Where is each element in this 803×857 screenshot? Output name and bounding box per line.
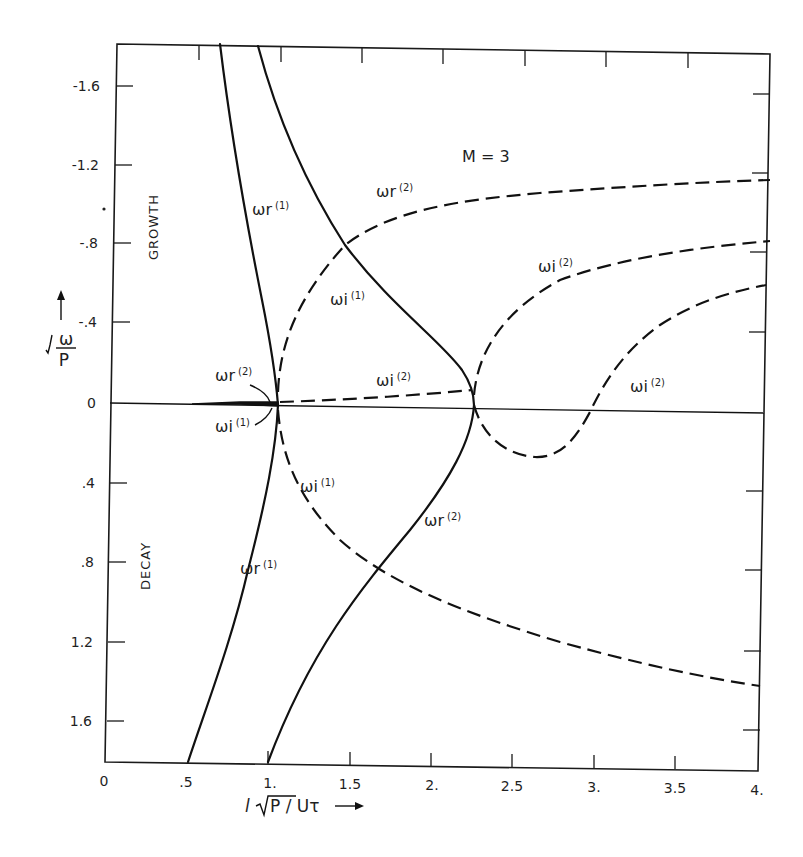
top-axis-ticks — [199, 46, 688, 68]
leader-line — [255, 408, 272, 425]
svg-text:1.6: 1.6 — [70, 713, 92, 729]
omega-r1-upper — [220, 44, 278, 405]
y-axis-title: ω P — [46, 290, 76, 370]
svg-text:.4: .4 — [82, 475, 95, 491]
arrow-head-icon — [57, 290, 65, 300]
svg-text:2.: 2. — [425, 777, 438, 793]
svg-text:0: 0 — [87, 395, 96, 411]
omega-i2-near-zero — [280, 390, 472, 402]
stray-dot — [102, 207, 105, 210]
label-omega-r2-near-zero: ωr(2) — [215, 366, 252, 385]
svg-text:P / Uτ: P / Uτ — [270, 796, 319, 816]
label-omega-i1-upper: ωi(1) — [330, 290, 365, 309]
svg-text:1.: 1. — [263, 775, 276, 791]
x-tick-labels: 0 .5 1. 1.5 2. 2.5 3. 3.5 4. — [100, 773, 764, 798]
label-omega-r1-upper: ωr(1) — [252, 200, 289, 219]
x-axis-title: l P / Uτ — [245, 796, 364, 816]
right-axis-ticks — [743, 94, 769, 730]
growth-label: GROWTH — [146, 194, 161, 260]
svg-text:.5: .5 — [179, 774, 192, 790]
omega-r1-lower — [188, 405, 278, 762]
y-tick-labels: -1.6 -1.2 -.8 -.4 0 .4 .8 1.2 1.6 — [70, 78, 100, 729]
label-omega-i2-upper: ωi(2) — [538, 257, 573, 276]
svg-text:.8: .8 — [81, 554, 94, 570]
label-omega-i1-near-zero: ωi(1) — [215, 417, 250, 436]
label-omega-i2-middle: ωi(2) — [376, 371, 411, 390]
svg-text:l: l — [245, 796, 250, 816]
parameter-label: M = 3 — [462, 147, 510, 166]
omega-i1-lower — [278, 410, 760, 686]
omega-r2-upper — [258, 46, 474, 405]
svg-text:4.: 4. — [750, 782, 763, 798]
arrow-head-icon — [355, 802, 364, 810]
label-omega-r2-lower: ωr(2) — [424, 511, 461, 530]
label-omega-r1-lower: ωr(1) — [240, 559, 277, 578]
omega-i1-upper — [278, 180, 770, 392]
svg-text:3.: 3. — [587, 779, 600, 795]
omega-r2-lower — [268, 405, 474, 762]
dispersion-chart: -1.6 -1.2 -.8 -.4 0 .4 .8 1.2 1.6 0 .5 1… — [0, 0, 803, 857]
svg-text:1.2: 1.2 — [71, 634, 93, 650]
label-omega-i2-right: ωi(2) — [630, 377, 665, 396]
svg-text:-1.6: -1.6 — [73, 78, 100, 94]
svg-text:0: 0 — [100, 773, 109, 789]
svg-text:-.4: -.4 — [79, 314, 98, 330]
label-omega-r2-upper: ωr(2) — [376, 182, 413, 201]
svg-text:1.5: 1.5 — [339, 776, 361, 792]
svg-text:-1.2: -1.2 — [72, 157, 99, 173]
omega-i2-upper — [474, 241, 770, 395]
curve-labels: ωr(1) ωr(2) ωi(1) ωi(2) ωr(2) ωi(1) ωi(2… — [215, 182, 665, 578]
svg-text:2.5: 2.5 — [501, 778, 523, 794]
svg-text:ω: ω — [59, 329, 73, 349]
svg-text:-.8: -.8 — [80, 235, 98, 251]
label-omega-i1-lower: ωi(1) — [300, 477, 335, 496]
svg-text:P: P — [59, 350, 69, 370]
leader-line — [250, 385, 270, 402]
decay-label: DECAY — [138, 542, 153, 590]
svg-text:3.5: 3.5 — [664, 780, 686, 796]
